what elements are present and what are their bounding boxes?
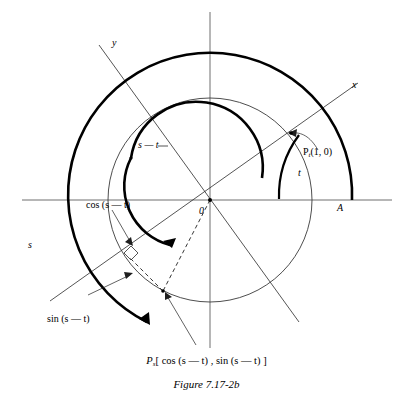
point-pt-label-rest: (1, 0) — [311, 146, 333, 157]
point-s-minus-t-dot — [129, 156, 132, 159]
point-a-label: A — [337, 203, 343, 213]
point-ps-expression: Ps[ cos (s — t) , sin (s — t) ] — [0, 355, 413, 368]
point-pt-dot — [289, 131, 293, 135]
arc-label-t: t — [298, 168, 301, 178]
point-ps-rest: [ cos (s — t) , sin (s — t) ] — [156, 355, 267, 366]
ps-leader-line — [167, 296, 196, 345]
point-pt-label: Pt(1, 0) — [303, 147, 332, 159]
origin-label: 0 — [199, 206, 204, 216]
arc-label-s: s — [28, 240, 32, 250]
outer-arc-arrowhead — [139, 312, 150, 325]
axis-label-x: x — [352, 80, 356, 90]
origin-dot — [208, 198, 212, 202]
cos-leader-line — [112, 210, 131, 243]
point-ps-dot — [161, 289, 165, 293]
figure-caption: Figure 7.17-2b — [0, 378, 413, 390]
arc-label-s-minus-t: s — t — [138, 140, 159, 150]
axis-label-y: y — [112, 38, 116, 48]
cos-label: cos (s — t) — [86, 200, 130, 210]
figure-container: y x 0 A s t s — t cos (s — t) sin (s — t… — [0, 0, 413, 405]
inner-bold-arc-s-minus-t — [124, 158, 170, 245]
sin-label: sin (s — t) — [47, 314, 90, 324]
perpendicular-dashed — [130, 258, 163, 291]
sin-leader-arrowhead — [124, 272, 133, 279]
rotated-y-axis — [99, 45, 299, 322]
figure-canvas — [0, 0, 413, 405]
